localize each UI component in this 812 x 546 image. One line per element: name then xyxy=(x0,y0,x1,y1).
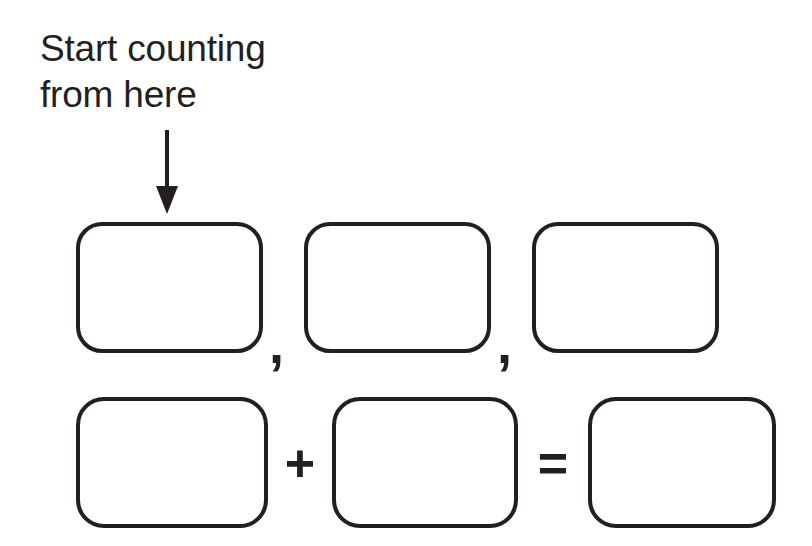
equals-sign: = xyxy=(518,397,588,528)
sequence-box-2[interactable] xyxy=(304,222,491,353)
addend-box-2[interactable] xyxy=(332,397,518,528)
comma-glyph-2: , xyxy=(497,317,512,371)
comma-separator-1: , xyxy=(263,222,304,353)
down-arrow-icon xyxy=(144,128,192,220)
start-counting-annotation: Start counting from here xyxy=(40,26,370,118)
comma-glyph-1: , xyxy=(269,317,284,371)
sequence-row: , , xyxy=(76,222,719,353)
sum-box[interactable] xyxy=(588,397,776,528)
plus-sign: + xyxy=(268,397,332,528)
equation-row: + = xyxy=(76,397,776,528)
sequence-box-3[interactable] xyxy=(532,222,719,353)
addend-box-1[interactable] xyxy=(76,397,268,528)
comma-separator-2: , xyxy=(491,222,532,353)
worksheet-canvas: Start counting from here , , + = xyxy=(0,0,812,546)
sequence-box-1[interactable] xyxy=(76,222,263,353)
